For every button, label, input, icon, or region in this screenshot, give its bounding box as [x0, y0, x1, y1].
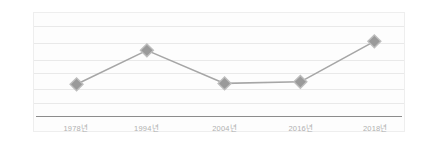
x-tick-label-2004: 2004년	[212, 122, 237, 133]
x-tick-label-2018: 2018년	[363, 122, 388, 133]
x-tick-label-1978: 1978년	[63, 122, 88, 133]
x-axis-tick-labels: 1978년 1994년 2004년 2016년 2018년	[33, 122, 405, 138]
x-tick-label-2016: 2016년	[288, 122, 313, 133]
line-chart-figure: 1978년 1994년 2004년 2016년 2018년	[0, 0, 437, 159]
x-tick-label-1994: 1994년	[134, 122, 159, 133]
plot-area	[34, 13, 404, 131]
chart-panel	[33, 12, 405, 132]
axis-group	[34, 13, 404, 131]
